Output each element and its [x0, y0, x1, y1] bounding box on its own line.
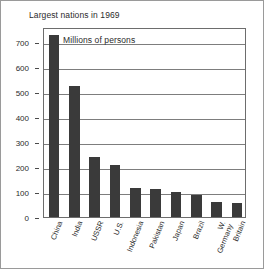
x-tick-label: Pakistan	[148, 220, 166, 250]
y-tick-label: 300	[16, 139, 29, 148]
y-tick-mark	[35, 93, 39, 94]
y-tick-mark	[35, 68, 39, 69]
y-tick-mark	[35, 143, 39, 144]
chart-subtitle: Millions of persons	[63, 35, 135, 45]
x-tick-label: U.S.	[113, 220, 126, 237]
y-tick-mark	[35, 218, 39, 219]
x-tick-label: China	[50, 220, 65, 241]
bar	[69, 86, 80, 217]
y-tick-mark	[35, 193, 39, 194]
chart-title: Largest nations in 1969	[29, 10, 120, 20]
y-tick-label: 400	[16, 114, 29, 123]
y-tick-mark	[35, 168, 39, 169]
bar	[49, 35, 60, 218]
bar	[89, 157, 100, 217]
bar	[191, 195, 202, 218]
bar	[110, 165, 121, 218]
x-tick-label: W. Germany	[208, 220, 234, 255]
y-tick-label: 600	[16, 64, 29, 73]
bar	[232, 203, 243, 217]
y-tick-label: 100	[16, 189, 29, 198]
x-tick-label: Indonesia	[126, 220, 146, 253]
x-tick-label: Brazil	[192, 220, 206, 240]
y-tick-label: 200	[16, 164, 29, 173]
chart-figure: Largest nations in 1969 Millions of pers…	[0, 0, 264, 269]
x-tick-label: Japan	[171, 220, 186, 242]
y-tick-mark	[35, 43, 39, 44]
y-tick-mark	[35, 118, 39, 119]
x-tick-label: India	[71, 220, 85, 238]
plot-area	[43, 28, 246, 218]
x-axis-tick-labels: ChinaIndiaUSSRU.S.IndonesiaPakistanJapan…	[43, 220, 246, 268]
y-tick-label: 700	[16, 39, 29, 48]
y-tick-label: 0	[25, 214, 29, 223]
y-tick-label: 500	[16, 89, 29, 98]
x-tick-label: Britain	[232, 220, 247, 243]
bar-series	[44, 29, 245, 217]
bar	[130, 188, 141, 217]
bar	[211, 202, 222, 217]
x-tick-label: USSR	[90, 220, 105, 242]
bar	[150, 189, 161, 217]
y-axis-tick-labels: 0100200300400500600700	[1, 28, 39, 218]
bar	[171, 192, 182, 218]
